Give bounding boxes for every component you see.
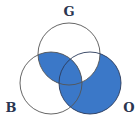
venn-diagram: G B O bbox=[0, 0, 139, 124]
label-b: B bbox=[6, 100, 17, 115]
label-g: G bbox=[63, 4, 74, 19]
label-o: O bbox=[123, 100, 134, 115]
